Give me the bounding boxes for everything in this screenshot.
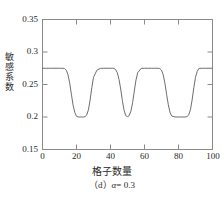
x-tick-label-100: 100 <box>203 152 223 161</box>
y-tick-label-0.25: 0.25 <box>14 80 38 89</box>
figure-container: 0.35 0.3 0.25 0.2 0.15 0 20 40 60 80 100… <box>0 0 224 197</box>
x-axis-title: 格子数量 <box>0 166 224 177</box>
y-axis-title: 敏感系数 <box>2 52 16 92</box>
x-tick-label-20: 20 <box>68 152 85 161</box>
plot-frame <box>43 20 213 150</box>
caption-value: = 0.3 <box>116 180 135 190</box>
x-tick-label-40: 40 <box>102 152 119 161</box>
figure-caption: （d）α= 0.3 <box>0 180 224 190</box>
x-tick-label-60: 60 <box>136 152 153 161</box>
y-tick-label-0.3: 0.3 <box>14 47 38 56</box>
x-tick-label-80: 80 <box>170 152 187 161</box>
y-tick-label-0.35: 0.35 <box>14 15 38 24</box>
y-tick-label-0.2: 0.2 <box>14 112 38 121</box>
caption-prefix: （d） <box>89 180 112 190</box>
x-tick-label-0: 0 <box>34 152 51 161</box>
